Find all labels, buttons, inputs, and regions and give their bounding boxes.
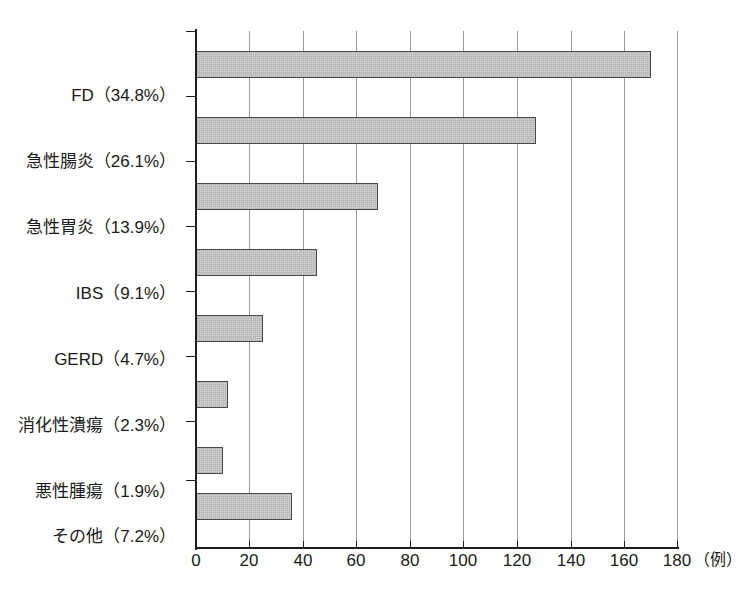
category-label-malignant-tumor: 悪性腫瘍（1.9%） <box>35 483 176 500</box>
y-tick-1 <box>186 96 196 97</box>
x-axis-label-20: 20 <box>240 552 259 569</box>
x-axis-label-80: 80 <box>401 552 420 569</box>
y-tick-3 <box>186 226 196 227</box>
bar-acute-gastritis <box>196 183 378 210</box>
y-tick-4 <box>186 291 196 292</box>
gridline-100 <box>463 31 464 548</box>
gridline-20 <box>249 31 250 548</box>
gridline-60 <box>356 31 357 548</box>
x-tick-0 <box>196 541 197 548</box>
category-label-other: その他（7.2%） <box>52 528 176 545</box>
gridline-120 <box>517 31 518 548</box>
x-axis-label-60: 60 <box>347 552 366 569</box>
x-tick-100 <box>463 541 464 548</box>
y-tick-top <box>186 31 196 32</box>
bar-acute-enteritis <box>196 117 536 144</box>
gridline-180 <box>677 31 678 548</box>
bar-other <box>196 493 292 520</box>
x-axis-label-180: 180 <box>663 552 691 569</box>
x-axis-label-160: 160 <box>610 552 638 569</box>
x-axis-label-0: 0 <box>191 552 200 569</box>
x-tick-160 <box>624 541 625 548</box>
gridline-160 <box>624 31 625 548</box>
category-label-gerd: GERD（4.7%） <box>54 351 176 368</box>
y-tick-5 <box>186 356 196 357</box>
x-axis-label-100: 100 <box>449 552 477 569</box>
bar-fd <box>196 51 651 78</box>
bar-ibs <box>196 249 317 276</box>
y-tick-2 <box>186 161 196 162</box>
bar-chart: FD（34.8%） 急性腸炎（26.1%） 急性胃炎（13.9%） IBS（9.… <box>0 0 755 591</box>
x-tick-180 <box>677 541 678 548</box>
x-axis-unit-label: （例） <box>694 552 742 568</box>
x-tick-60 <box>356 541 357 548</box>
x-tick-120 <box>517 541 518 548</box>
bar-malignant-tumor <box>196 447 223 474</box>
x-axis-label-140: 140 <box>557 552 585 569</box>
x-axis-label-120: 120 <box>503 552 531 569</box>
bar-peptic-ulcer <box>196 381 228 408</box>
y-axis-line <box>195 29 197 550</box>
gridline-80 <box>410 31 411 548</box>
category-label-acute-gastritis: 急性胃炎（13.9%） <box>26 219 176 236</box>
plot-area <box>196 31 678 548</box>
category-label-ibs: IBS（9.1%） <box>76 285 176 302</box>
gridline-140 <box>571 31 572 548</box>
gridline-40 <box>303 31 304 548</box>
x-tick-20 <box>249 541 250 548</box>
category-axis-labels: FD（34.8%） 急性腸炎（26.1%） 急性胃炎（13.9%） IBS（9.… <box>0 31 186 548</box>
y-tick-6 <box>186 421 196 422</box>
category-label-acute-enteritis: 急性腸炎（26.1%） <box>26 153 176 170</box>
x-tick-40 <box>303 541 304 548</box>
category-label-fd: FD（34.8%） <box>71 87 176 104</box>
bar-gerd <box>196 315 263 342</box>
x-tick-80 <box>410 541 411 548</box>
category-label-peptic-ulcer: 消化性潰瘍（2.3%） <box>18 417 176 434</box>
x-tick-140 <box>571 541 572 548</box>
y-tick-7 <box>186 480 196 481</box>
x-axis-line <box>195 547 679 549</box>
x-axis-label-40: 40 <box>294 552 313 569</box>
